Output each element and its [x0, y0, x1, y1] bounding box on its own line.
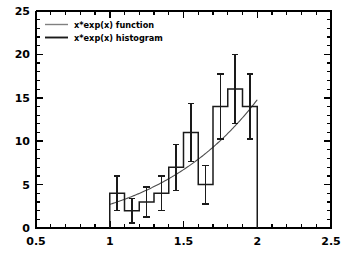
- x-tick-label-2: 1.5: [174, 235, 194, 248]
- y-tick-label-5: 25: [15, 5, 30, 18]
- x-tick-label-4: 2.5: [321, 235, 341, 248]
- x-tick-label-0: 0.5: [26, 235, 46, 248]
- x-tick-label-1: 1: [106, 235, 114, 248]
- x-tick-label-3: 2: [253, 235, 261, 248]
- legend-label-function: x*exp(x) function: [74, 20, 154, 30]
- y-tick-label-0: 0: [22, 222, 30, 235]
- chart-root: 0.511.522.5 0510152025 x*exp(x) function…: [0, 0, 351, 259]
- chart-background: [0, 0, 351, 259]
- xexpx-histogram-chart: 0.511.522.5 0510152025 x*exp(x) function…: [0, 0, 351, 259]
- legend-label-histogram: x*exp(x) histogram: [74, 33, 163, 43]
- y-tick-label-3: 15: [15, 92, 30, 105]
- y-tick-label-2: 10: [15, 135, 31, 148]
- y-tick-label-4: 20: [15, 48, 31, 61]
- y-tick-label-1: 5: [22, 179, 30, 192]
